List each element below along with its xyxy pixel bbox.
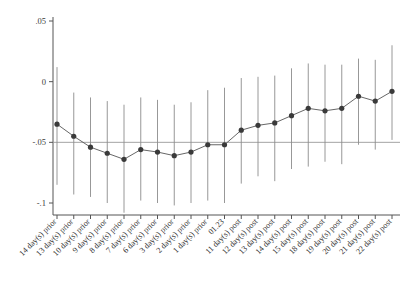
y-axis-tick-label: 0 [42, 77, 46, 87]
y-axis-tick-label: -.05 [33, 137, 46, 147]
data-point-marker: 11 day(s) post: -0.04 [239, 128, 244, 133]
data-point-marker: 13 day(s) post: -0.034 [272, 120, 277, 125]
data-point-marker: 10 day(s) prior: -0.054 [88, 145, 93, 150]
data-point-marker: 19 day(s) post: -0.022 [339, 106, 344, 111]
data-point-marker: 6 day(s) prior: -0.058 [155, 149, 160, 154]
y-axis-tick-label: .05 [35, 16, 46, 26]
data-point-marker: 14 day(s) post: -0.028 [289, 113, 294, 118]
data-point-marker: 9 day(s) prior: -0.059 [105, 151, 110, 156]
data-point-marker: 15 day(s) post: -0.022 [306, 106, 311, 111]
data-point-marker: 22 day(s) post: -0.008 [389, 89, 394, 94]
data-point-marker: 7 day(s) prior: -0.056 [138, 147, 143, 152]
data-point-marker: 12 day(s) post: -0.036 [255, 123, 260, 128]
data-point-marker: 14 day(s) prior: -0.035 [54, 122, 59, 127]
data-point-marker: 21 day(s) post: -0.016 [373, 98, 378, 103]
data-point-marker: 1 day(s) prior: -0.052 [205, 142, 210, 147]
data-point-marker: 8 day(s) prior: -0.064 [121, 157, 126, 162]
coefficient-plot: .050-.05-.114 day(s) prior: -0.03513 day… [0, 0, 405, 283]
y-axis-tick-label: -.1 [37, 198, 46, 208]
chart-container: .050-.05-.114 day(s) prior: -0.03513 day… [0, 0, 405, 283]
data-point-marker: 18 day(s) post: -0.024 [322, 108, 327, 113]
data-point-marker: 3 day(s) prior: -0.061 [172, 153, 177, 158]
data-point-marker: 20 day(s) post: -0.012 [356, 94, 361, 99]
data-point-marker: 13 day(s) prior: -0.045 [71, 134, 76, 139]
data-point-marker: 01.23: -0.052 [222, 142, 227, 147]
data-point-marker: 2 day(s) prior: -0.058 [188, 149, 193, 154]
